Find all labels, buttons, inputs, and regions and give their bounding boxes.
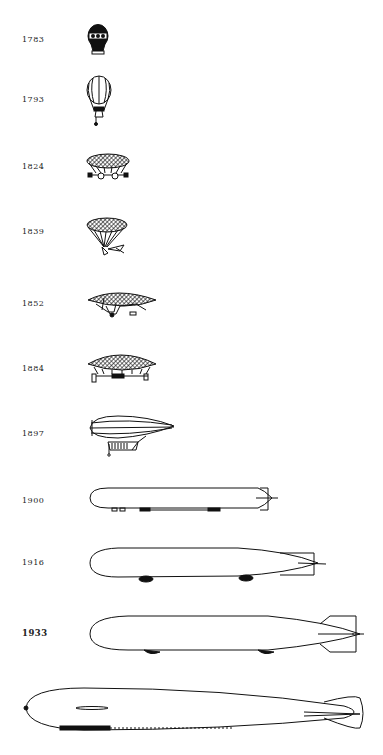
- montgolfier-balloon-icon: [86, 24, 110, 56]
- dirigible-propeller-icon: [86, 217, 138, 257]
- year-label: 1884: [22, 364, 44, 373]
- gas-balloon-icon: [86, 75, 112, 131]
- year-label: 1916: [22, 558, 44, 567]
- year-label: 1783: [22, 35, 44, 44]
- year-label: 1897: [22, 429, 44, 438]
- year-label: 1824: [22, 162, 44, 171]
- zeppelin-lz1-icon: [88, 486, 278, 514]
- streamlined-airship-icon: [88, 612, 368, 658]
- steam-airship-icon: [86, 290, 158, 324]
- year-label: 1839: [22, 227, 44, 236]
- dirigible-balloon-icon: [86, 153, 132, 183]
- year-label: 1900: [22, 496, 44, 505]
- large-passenger-airship-icon: [24, 684, 374, 740]
- year-label: 1852: [22, 299, 44, 308]
- year-label: 1933: [22, 628, 48, 638]
- wwi-zeppelin-icon: [88, 545, 328, 585]
- la-france-airship-icon: [86, 352, 158, 388]
- year-label: 1793: [22, 95, 44, 104]
- rigid-airship-car-icon: [88, 414, 178, 456]
